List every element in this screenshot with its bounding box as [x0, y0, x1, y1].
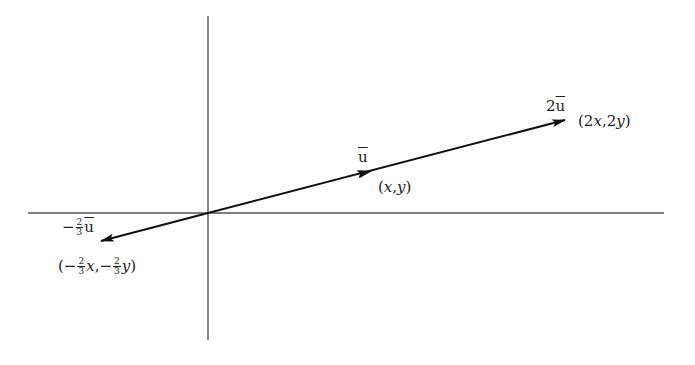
- y-var: y: [122, 257, 130, 275]
- fraction: 23: [113, 257, 121, 276]
- minus-sign: −: [62, 218, 75, 236]
- vector-neg-two-thirds-u: [101, 213, 208, 241]
- y-var: y: [397, 178, 405, 196]
- u-letter: u: [358, 148, 368, 166]
- vector-diagram: [0, 0, 695, 365]
- coef-2: 2: [607, 112, 617, 130]
- fraction: 23: [76, 218, 84, 237]
- u-letter: u: [556, 97, 566, 115]
- label-point-xy: (x,y): [378, 180, 411, 195]
- x-var: x: [86, 257, 94, 275]
- vector-2u: [208, 120, 565, 213]
- paren-close: ): [130, 257, 136, 275]
- u-letter: u: [84, 218, 94, 236]
- minus-sign: −: [64, 257, 77, 275]
- label-2u-vector: 2u: [546, 99, 565, 114]
- paren-close: ): [406, 178, 412, 196]
- y-var: y: [616, 112, 624, 130]
- coef-2: 2: [584, 112, 594, 130]
- coef-2: 2: [546, 97, 556, 115]
- label-u-vector: u: [358, 150, 368, 165]
- label-point-neg-two-thirds: (−23x,−23y): [58, 257, 136, 276]
- minus-sign: −: [99, 257, 112, 275]
- denominator: 3: [77, 267, 85, 276]
- label-neg-two-thirds-u-vector: −23u: [62, 218, 94, 237]
- x-var: x: [593, 112, 601, 130]
- denominator: 3: [113, 267, 121, 276]
- paren-close: ): [625, 112, 631, 130]
- denominator: 3: [76, 228, 84, 237]
- label-point-2x2y: (2x,2y): [578, 114, 631, 129]
- fraction: 23: [77, 257, 85, 276]
